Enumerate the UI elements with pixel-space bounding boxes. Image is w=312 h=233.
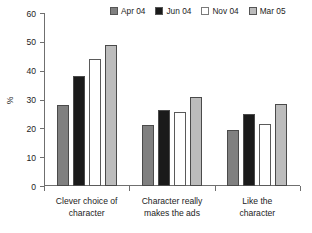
plot-area: 0102030405060: [44, 13, 300, 186]
bar-chart: Apr 04Jun 04Nov 04Mar 05 % 0102030405060…: [0, 0, 312, 233]
bar[interactable]: [259, 124, 271, 186]
bar[interactable]: [57, 105, 69, 186]
y-axis-tick-label: 30: [26, 96, 36, 105]
bar[interactable]: [89, 59, 101, 186]
x-axis-category-label-line: makes the ads: [129, 208, 214, 220]
x-axis-category-label-line: Like the: [215, 196, 300, 208]
x-axis-category-label-line: Clever choice of: [44, 196, 129, 208]
bar[interactable]: [142, 125, 154, 186]
x-axis-separator-tick: [129, 186, 130, 191]
bar[interactable]: [275, 104, 287, 186]
bar[interactable]: [243, 114, 255, 186]
x-axis-separator-tick: [215, 186, 216, 191]
y-axis-tick-label: 60: [26, 9, 36, 18]
x-axis-category-label-line: character: [215, 208, 300, 220]
x-axis-separator-tick: [300, 186, 301, 191]
y-axis-tick-label: 50: [26, 38, 36, 47]
x-axis-category-label-line: Character really: [129, 196, 214, 208]
bar-group: [44, 13, 129, 186]
y-axis-tick-label: 20: [26, 125, 36, 134]
y-axis-tick-label: 10: [26, 153, 36, 162]
x-axis-category-label: Character reallymakes the ads: [129, 196, 214, 219]
y-axis-title: %: [6, 96, 15, 104]
y-axis-tick-label: 40: [26, 67, 36, 76]
x-axis-category-label: Clever choice ofcharacter: [44, 196, 129, 219]
bar-group: [129, 13, 214, 186]
bar[interactable]: [190, 97, 202, 186]
bar[interactable]: [73, 76, 85, 186]
bar[interactable]: [158, 110, 170, 186]
bar[interactable]: [174, 112, 186, 186]
bar[interactable]: [227, 130, 239, 186]
x-axis-category-label: Like thecharacter: [215, 196, 300, 219]
x-axis-category-label-line: character: [44, 208, 129, 220]
bar[interactable]: [105, 45, 117, 186]
bar-group: [215, 13, 300, 186]
x-axis-separator-tick: [44, 186, 45, 191]
y-axis-tick-label: 0: [31, 182, 36, 191]
